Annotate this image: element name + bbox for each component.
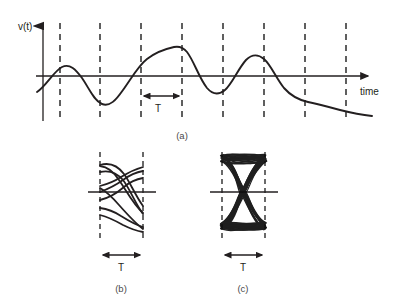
period-label-a: T xyxy=(155,103,161,114)
panel-b: T (b) xyxy=(88,152,156,294)
eye-traces-b xyxy=(100,164,143,232)
period-label-c: T xyxy=(240,262,246,273)
period-label-b: T xyxy=(118,262,124,273)
panel-caption-c: (c) xyxy=(237,283,248,294)
y-axis-label: v(t) xyxy=(18,21,32,32)
panel-c: T (c) xyxy=(210,152,278,294)
panel-caption-a: (a) xyxy=(176,130,188,141)
figure-root: v(t) time T (a) xyxy=(0,0,401,302)
panel-a: v(t) time T (a) xyxy=(18,21,379,141)
x-axis-label: time xyxy=(360,86,379,97)
symbol-boundary-lines xyxy=(60,23,346,121)
signal-eye-diagram-figure: v(t) time T (a) xyxy=(0,0,401,302)
panel-caption-b: (b) xyxy=(115,283,127,294)
waveform-trace xyxy=(37,47,372,116)
